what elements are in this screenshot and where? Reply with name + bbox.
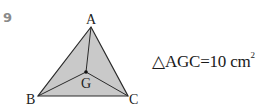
centroid-point	[84, 70, 88, 74]
area-exponent: 2	[251, 50, 255, 60]
vertex-label-c: C	[129, 92, 138, 107]
equals-sign: =	[200, 52, 209, 71]
area-value: 10	[210, 52, 227, 71]
vertex-label-b: B	[26, 92, 35, 107]
vertex-label-a: A	[86, 12, 97, 27]
triangle-name: AGC	[165, 52, 200, 71]
area-equation: △AGC=10 cm2	[152, 51, 255, 72]
triangle-symbol: △	[152, 52, 165, 71]
vertex-label-g: G	[81, 76, 91, 91]
area-unit: cm	[230, 52, 250, 71]
